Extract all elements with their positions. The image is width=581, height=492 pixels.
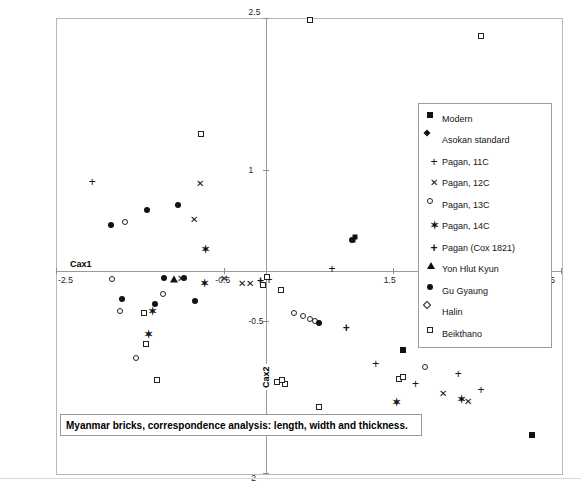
marker-diamond-open-icon [154, 377, 160, 383]
marker-circle-open-icon [160, 291, 166, 297]
legend-item-modern[interactable]: Modern [419, 108, 551, 130]
legend-marker-triangle-filled-icon [427, 262, 441, 276]
marker-circle-filled-icon [181, 275, 187, 281]
marker-star-icon: ✶ [148, 306, 157, 317]
marker-x-icon: ✕ [238, 279, 246, 289]
legend-item-pagan-14c[interactable]: ✶Pagan, 14C [419, 216, 551, 238]
marker-plus-icon: + [372, 358, 379, 370]
marker-square-open-icon [307, 17, 313, 23]
legend-marker-star-icon: ✶ [427, 219, 441, 233]
y-tick-label: 2.5 [248, 7, 260, 17]
legend-item-label: Beikthano [442, 329, 482, 339]
legend-item-pagan-11c[interactable]: +Pagan, 11C [419, 151, 551, 173]
legend-marker-circle-filled-icon [427, 284, 441, 298]
marker-plus-icon: + [478, 384, 485, 396]
legend-marker-plus-bold-icon: + [427, 241, 441, 255]
figure-canvas: -2.5-0.51.53.52.51-0.5-2 Cax1 Cax2 +++++… [0, 0, 581, 492]
legend-marker-square-filled-icon [427, 112, 441, 126]
marker-plus-icon: + [412, 378, 419, 390]
legend-item-label: Pagan, 12C [442, 178, 490, 188]
marker-diamond-open-icon [198, 131, 204, 137]
marker-x-icon: ✕ [246, 279, 254, 289]
legend-item-gu-gyaung[interactable]: Gu Gyaung [419, 280, 551, 302]
x-axis-label: Cax1 [68, 259, 94, 269]
y-tick-label: -0.5 [248, 316, 263, 326]
marker-circle-filled-icon [175, 202, 181, 208]
marker-diamond-open-icon [141, 310, 147, 316]
legend-item-pagan-cox-1821[interactable]: +Pagan (Cox 1821) [419, 237, 551, 259]
marker-circle-open-icon [109, 276, 115, 282]
marker-triangle-filled-icon [170, 275, 178, 282]
legend-item-halin[interactable]: Halin [419, 302, 551, 324]
marker-square-open-icon [278, 287, 284, 293]
chart-caption: Myanmar bricks, correspondence analysis:… [60, 414, 422, 436]
marker-circle-filled-icon [152, 301, 158, 307]
marker-circle-filled-icon [316, 320, 322, 326]
legend-item-label: Modern [442, 114, 473, 124]
marker-x-icon: ✕ [220, 274, 228, 284]
legend-item-label: Halin [442, 307, 463, 317]
y-axis-line [266, 18, 267, 473]
marker-x-icon: ✕ [190, 215, 198, 225]
legend-item-label: Yon Hlut Kyun [442, 264, 499, 274]
marker-circle-filled-icon [349, 237, 355, 243]
marker-square-filled-icon [400, 347, 406, 353]
legend-item-asokan-standard[interactable]: Asokan standard [419, 130, 551, 152]
legend-item-yon-hlut-kyun[interactable]: Yon Hlut Kyun [419, 259, 551, 281]
marker-plus-icon: + [329, 263, 336, 275]
legend-marker-diamond-filled-icon [427, 133, 441, 147]
marker-circle-open-icon [117, 308, 123, 314]
marker-circle-open-icon [422, 364, 428, 370]
legend-marker-square-open-icon [427, 327, 441, 341]
legend-marker-circle-open-icon [427, 198, 441, 212]
marker-star-icon: ✶ [457, 394, 466, 405]
legend-marker-plus-icon: + [427, 155, 441, 169]
marker-circle-filled-icon [108, 222, 114, 228]
legend-item-label: Pagan (Cox 1821) [442, 243, 515, 253]
marker-plus-icon: + [89, 176, 96, 188]
marker-star-icon: ✶ [201, 243, 210, 254]
marker-star-icon: ✶ [144, 329, 153, 340]
marker-star-icon: ✶ [392, 397, 401, 408]
marker-square-open-icon [316, 404, 322, 410]
marker-diamond-open-icon [400, 374, 406, 380]
marker-circle-open-icon [122, 219, 128, 225]
marker-plus-bold-icon: + [343, 322, 350, 334]
x-tick-label: 1.5 [384, 275, 396, 285]
marker-plus-icon: + [455, 368, 462, 380]
marker-x-icon: ✕ [196, 179, 204, 189]
marker-diamond-open-icon [143, 341, 149, 347]
legend-item-label: Asokan standard [442, 135, 510, 145]
marker-circle-filled-icon [192, 298, 198, 304]
y-tick-label: 1 [248, 165, 253, 175]
legend-item-label: Pagan, 13C [442, 200, 490, 210]
marker-square-filled-icon [529, 432, 535, 438]
legend-item-pagan-13c[interactable]: Pagan, 13C [419, 194, 551, 216]
legend: ModernAsokan standard+Pagan, 11C✕Pagan, … [418, 103, 552, 348]
legend-item-label: Pagan, 11C [442, 157, 489, 167]
legend-marker-diamond-open-icon [427, 305, 441, 319]
legend-item-pagan-12c[interactable]: ✕Pagan, 12C [419, 173, 551, 195]
marker-circle-filled-icon [144, 207, 150, 213]
marker-circle-open-icon [300, 313, 306, 319]
caption-text: Myanmar bricks, correspondence analysis:… [66, 420, 408, 431]
marker-circle-filled-icon [161, 275, 167, 281]
marker-circle-filled-icon [119, 296, 125, 302]
x-tick-label: -2.5 [58, 275, 73, 285]
marker-diamond-open-icon [478, 33, 484, 39]
marker-square-open-icon [264, 274, 270, 280]
footer-divider [0, 478, 581, 479]
y-axis-label: Cax2 [261, 365, 271, 391]
marker-star-icon: ✶ [200, 277, 209, 288]
legend-marker-x-icon: ✕ [427, 176, 441, 190]
marker-square-open-icon [260, 282, 266, 288]
marker-circle-open-icon [291, 310, 297, 316]
legend-item-label: Pagan, 14C [442, 221, 490, 231]
legend-item-beikthano[interactable]: Beikthano [419, 323, 551, 345]
marker-square-open-icon [279, 377, 285, 383]
marker-x-icon: ✕ [439, 389, 447, 399]
legend-item-label: Gu Gyaung [442, 286, 488, 296]
marker-circle-open-icon [133, 355, 139, 361]
